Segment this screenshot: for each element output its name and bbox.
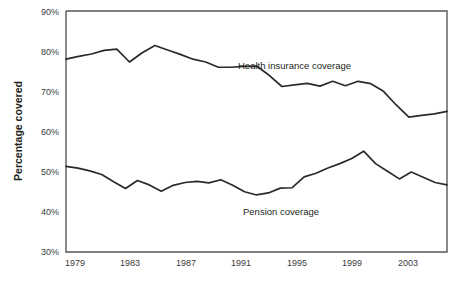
y-tick-label: 90% <box>41 7 59 17</box>
health-insurance-coverage-label: Health insurance coverage <box>238 60 351 71</box>
y-tick-label: 60% <box>41 127 59 137</box>
y-tick-label: 30% <box>41 247 59 257</box>
x-axis-tick-labels: 1979 1983 1987 1991 1995 1999 2003 <box>65 258 418 268</box>
x-tick-label: 1987 <box>176 258 196 268</box>
y-tick-label: 40% <box>41 207 59 217</box>
pension-coverage-label: Pension coverage <box>243 206 319 217</box>
x-tick-label: 1995 <box>287 258 307 268</box>
y-axis-title: Percentage covered <box>12 81 24 181</box>
pension-coverage-line <box>66 151 447 195</box>
y-tick-label: 70% <box>41 87 59 97</box>
x-tick-label: 1983 <box>120 258 140 268</box>
line-chart: 90% 80% 70% 60% 50% 40% 30% 1979 1983 19… <box>0 0 460 283</box>
x-tick-label: 2003 <box>398 258 418 268</box>
x-tick-label: 1999 <box>342 258 362 268</box>
chart-container: 90% 80% 70% 60% 50% 40% 30% 1979 1983 19… <box>0 0 460 283</box>
y-tick-label: 50% <box>41 167 59 177</box>
health-insurance-coverage-line <box>66 46 447 118</box>
y-axis-tick-labels: 90% 80% 70% 60% 50% 40% 30% <box>41 7 59 257</box>
x-tick-label: 1991 <box>231 258 251 268</box>
x-tick-label: 1979 <box>65 258 85 268</box>
y-tick-label: 80% <box>41 47 59 57</box>
